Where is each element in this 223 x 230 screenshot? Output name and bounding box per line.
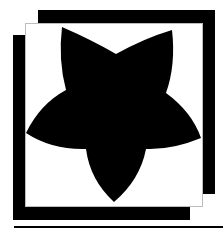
star-icon	[0, 0, 223, 230]
star-shape	[26, 27, 201, 202]
baseline-rule	[14, 226, 223, 228]
